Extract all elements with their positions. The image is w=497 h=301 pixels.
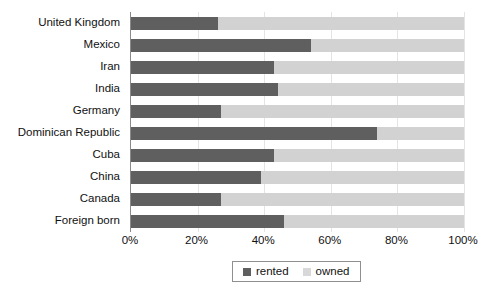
category-label: Iran bbox=[0, 56, 126, 78]
legend-swatch-rented-icon bbox=[243, 268, 251, 276]
bar-segment-owned[interactable] bbox=[278, 83, 464, 96]
legend-item-rented[interactable]: rented bbox=[243, 266, 289, 278]
bar-segment-owned[interactable] bbox=[221, 193, 464, 206]
bar-row[interactable] bbox=[131, 188, 464, 210]
bar-track bbox=[131, 17, 464, 30]
bar-row[interactable] bbox=[131, 100, 464, 122]
bar-segment-rented[interactable] bbox=[131, 61, 274, 74]
bar-track bbox=[131, 127, 464, 140]
plot-area bbox=[130, 12, 464, 232]
x-axis-tick-label: 20% bbox=[185, 235, 208, 247]
bar-row[interactable] bbox=[131, 144, 464, 166]
bar-track bbox=[131, 193, 464, 206]
bar-segment-rented[interactable] bbox=[131, 39, 311, 52]
bar-track bbox=[131, 105, 464, 118]
x-axis-tick-label: 100% bbox=[448, 235, 477, 247]
bar-segment-rented[interactable] bbox=[131, 105, 221, 118]
gridline bbox=[464, 12, 465, 232]
stacked-bar-chart: United KingdomMexicoIranIndiaGermanyDomi… bbox=[0, 0, 497, 301]
bar-segment-owned[interactable] bbox=[311, 39, 464, 52]
x-axis-tick-label: 40% bbox=[252, 235, 275, 247]
bar-track bbox=[131, 171, 464, 184]
bar-row[interactable] bbox=[131, 78, 464, 100]
bar-segment-rented[interactable] bbox=[131, 215, 284, 228]
chart-legend: rentedowned bbox=[232, 261, 361, 282]
bar-track bbox=[131, 83, 464, 96]
bar-segment-owned[interactable] bbox=[218, 17, 464, 30]
category-label: Canada bbox=[0, 188, 126, 210]
category-label: United Kingdom bbox=[0, 12, 126, 34]
legend-swatch-owned-icon bbox=[303, 268, 311, 276]
bar-segment-rented[interactable] bbox=[131, 127, 377, 140]
bar-segment-rented[interactable] bbox=[131, 149, 274, 162]
category-label: Germany bbox=[0, 100, 126, 122]
bar-segment-rented[interactable] bbox=[131, 193, 221, 206]
bar-row[interactable] bbox=[131, 210, 464, 232]
bar-segment-owned[interactable] bbox=[261, 171, 464, 184]
bar-track bbox=[131, 61, 464, 74]
value-axis: 0%20%40%60%80%100% bbox=[130, 232, 463, 250]
category-label: India bbox=[0, 78, 126, 100]
bar-segment-owned[interactable] bbox=[221, 105, 464, 118]
bar-segment-rented[interactable] bbox=[131, 83, 278, 96]
legend-label: rented bbox=[256, 266, 289, 278]
bar-row[interactable] bbox=[131, 56, 464, 78]
bar-segment-rented[interactable] bbox=[131, 171, 261, 184]
legend-label: owned bbox=[316, 266, 350, 278]
bar-row[interactable] bbox=[131, 166, 464, 188]
bar-track bbox=[131, 215, 464, 228]
bar-segment-owned[interactable] bbox=[377, 127, 464, 140]
x-axis-tick-label: 60% bbox=[318, 235, 341, 247]
category-label: Cuba bbox=[0, 144, 126, 166]
x-axis-tick-label: 80% bbox=[385, 235, 408, 247]
plot-wrapper: United KingdomMexicoIranIndiaGermanyDomi… bbox=[0, 12, 497, 232]
category-label: Dominican Republic bbox=[0, 122, 126, 144]
bar-segment-owned[interactable] bbox=[274, 61, 464, 74]
legend-item-owned[interactable]: owned bbox=[303, 266, 350, 278]
bar-track bbox=[131, 149, 464, 162]
bar-row[interactable] bbox=[131, 34, 464, 56]
x-axis-tick-label: 0% bbox=[122, 235, 139, 247]
bar-row[interactable] bbox=[131, 122, 464, 144]
bar-segment-owned[interactable] bbox=[274, 149, 464, 162]
bar-segment-owned[interactable] bbox=[284, 215, 464, 228]
bar-series-group bbox=[131, 12, 464, 232]
category-label: China bbox=[0, 166, 126, 188]
bar-track bbox=[131, 39, 464, 52]
bar-row[interactable] bbox=[131, 12, 464, 34]
bar-segment-rented[interactable] bbox=[131, 17, 218, 30]
category-label: Foreign born bbox=[0, 210, 126, 232]
category-axis-labels: United KingdomMexicoIranIndiaGermanyDomi… bbox=[0, 12, 126, 232]
category-label: Mexico bbox=[0, 34, 126, 56]
